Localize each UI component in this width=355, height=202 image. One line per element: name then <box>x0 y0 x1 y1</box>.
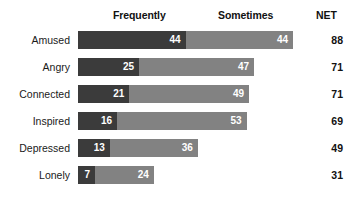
chart-row: Depressed133649 <box>0 139 355 157</box>
bar-value-frequently: 16 <box>101 112 112 130</box>
net-value: 71 <box>305 58 343 76</box>
bar-segment-sometimes: 44 <box>186 31 294 49</box>
bar-value-frequently: 44 <box>169 31 180 49</box>
stacked-bar: 2547 <box>78 58 254 76</box>
stacked-bar: 2149 <box>78 85 249 103</box>
bar-segment-frequently: 25 <box>78 58 139 76</box>
stacked-bar-chart: Frequently Sometimes NET Amused444488Ang… <box>0 0 355 202</box>
bar-segment-frequently: 7 <box>78 166 95 184</box>
net-value: 49 <box>305 139 343 157</box>
bar-segment-sometimes: 36 <box>110 139 198 157</box>
chart-row: Angry254771 <box>0 58 355 76</box>
bar-value-sometimes: 47 <box>238 58 249 76</box>
chart-row: Connected214971 <box>0 85 355 103</box>
chart-row: Amused444488 <box>0 31 355 49</box>
bar-segment-frequently: 44 <box>78 31 186 49</box>
bar-value-frequently: 25 <box>123 58 134 76</box>
bar-segment-sometimes: 47 <box>139 58 254 76</box>
bar-value-sometimes: 36 <box>182 139 193 157</box>
row-label-inspired: Inspired <box>0 112 70 130</box>
stacked-bar: 724 <box>78 166 154 184</box>
bar-value-sometimes: 49 <box>233 85 244 103</box>
bar-segment-frequently: 13 <box>78 139 110 157</box>
column-header-sometimes: Sometimes <box>218 9 273 21</box>
bar-segment-sometimes: 53 <box>117 112 247 130</box>
bar-value-frequently: 7 <box>85 166 91 184</box>
net-value: 88 <box>305 31 343 49</box>
net-value: 69 <box>305 112 343 130</box>
column-header-frequently: Frequently <box>113 9 166 21</box>
row-label-amused: Amused <box>0 31 70 49</box>
bar-value-frequently: 13 <box>94 139 105 157</box>
row-label-angry: Angry <box>0 58 70 76</box>
bar-segment-sometimes: 24 <box>95 166 154 184</box>
bar-segment-sometimes: 49 <box>129 85 249 103</box>
chart-row: Lonely72431 <box>0 166 355 184</box>
bar-segment-frequently: 21 <box>78 85 129 103</box>
row-label-depressed: Depressed <box>0 139 70 157</box>
bar-value-frequently: 21 <box>113 85 124 103</box>
net-value: 71 <box>305 85 343 103</box>
column-header-net: NET <box>316 9 337 21</box>
stacked-bar: 4444 <box>78 31 293 49</box>
net-value: 31 <box>305 166 343 184</box>
bar-value-sometimes: 44 <box>277 31 288 49</box>
stacked-bar: 1336 <box>78 139 198 157</box>
bar-value-sometimes: 24 <box>138 166 149 184</box>
bar-value-sometimes: 53 <box>231 112 242 130</box>
row-label-lonely: Lonely <box>0 166 70 184</box>
chart-row: Inspired165369 <box>0 112 355 130</box>
stacked-bar: 1653 <box>78 112 247 130</box>
row-label-connected: Connected <box>0 85 70 103</box>
bar-segment-frequently: 16 <box>78 112 117 130</box>
